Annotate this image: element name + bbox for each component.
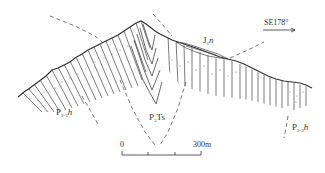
direction-label: SE178°	[264, 19, 289, 27]
unit-label-right: P2-3h	[292, 123, 308, 133]
unit-label-cap: J1n	[203, 36, 214, 46]
unit-label-left: P2-3h	[56, 108, 72, 118]
direction-arrow	[263, 28, 295, 32]
scale-end-label: 300m	[193, 141, 211, 149]
scale-bar	[122, 151, 201, 155]
syncline-fold-lines	[131, 24, 162, 104]
left-strata-hatch	[22, 21, 150, 112]
topographic-profile	[18, 21, 312, 97]
unit-label-core: P3Ts	[149, 113, 165, 123]
scale-start-label: 0	[120, 141, 124, 149]
